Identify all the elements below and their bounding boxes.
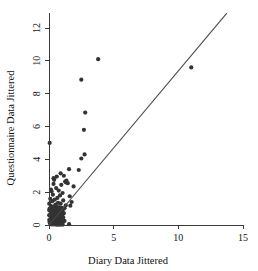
y-tick-label: 4 xyxy=(31,157,42,162)
data-point xyxy=(67,222,71,226)
data-point xyxy=(68,194,72,198)
data-point xyxy=(57,188,61,192)
x-tick-label: 15 xyxy=(238,232,248,243)
data-point xyxy=(66,181,70,185)
reference-line xyxy=(49,13,227,225)
y-tick-label: 2 xyxy=(31,190,42,195)
scatter-plot-figure: 051015024681012 Diary Data Jittered Ques… xyxy=(0,0,258,271)
y-axis-title: Questionnaire Data Jittered xyxy=(5,70,16,186)
y-tick-label: 8 xyxy=(31,91,42,96)
axes-layer xyxy=(45,13,243,229)
reference-line-layer xyxy=(49,13,227,225)
data-point xyxy=(59,202,63,206)
data-point xyxy=(96,57,100,61)
data-point xyxy=(79,78,83,82)
data-point xyxy=(67,167,71,171)
data-point xyxy=(79,156,83,160)
data-point xyxy=(51,193,55,197)
data-point xyxy=(71,184,75,188)
x-tick-label: 5 xyxy=(111,232,116,243)
data-point xyxy=(82,128,86,132)
x-axis-title: Diary Data Jittered xyxy=(88,255,169,266)
data-point xyxy=(189,65,193,69)
x-tick-label: 0 xyxy=(47,232,52,243)
data-point xyxy=(68,204,72,208)
data-point xyxy=(62,174,66,178)
x-tick-label: 10 xyxy=(173,232,183,243)
data-point xyxy=(52,178,56,182)
plot-canvas: 051015024681012 Diary Data Jittered Ques… xyxy=(0,0,258,271)
y-tick-label: 0 xyxy=(31,223,42,228)
data-point xyxy=(59,183,63,187)
data-point xyxy=(82,152,86,156)
y-tick-label: 10 xyxy=(31,56,42,66)
y-tick-label: 12 xyxy=(31,23,42,33)
data-point xyxy=(51,182,55,186)
data-point xyxy=(48,141,52,145)
data-point xyxy=(83,110,87,114)
data-point xyxy=(77,168,81,172)
y-tick-label: 6 xyxy=(31,124,42,129)
data-point xyxy=(61,198,65,202)
